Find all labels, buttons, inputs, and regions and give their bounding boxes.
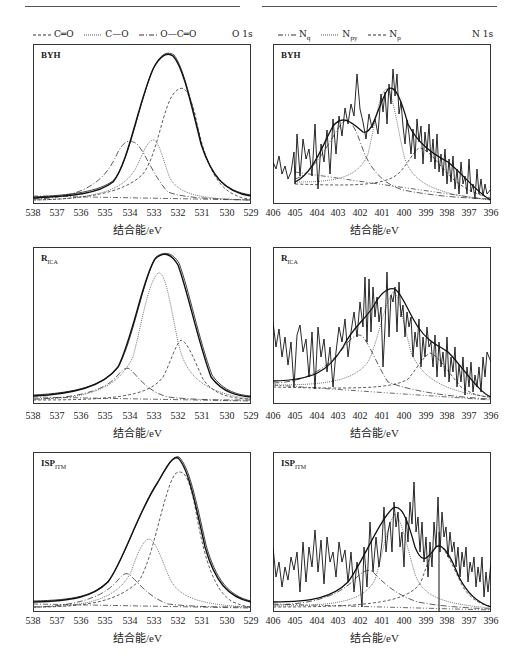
legend-item-np: Np <box>368 29 401 43</box>
top-rule-right <box>262 6 497 7</box>
n1s-byh-plot <box>273 44 491 204</box>
panel-label-byh-n: BYH <box>281 50 301 60</box>
top-rule-left <box>25 6 240 7</box>
panel-label-ispitm: ISPITM <box>41 458 66 470</box>
xlabel-o1s-row1: 结合能/eV <box>113 221 162 237</box>
legend-item-c-o: C—O <box>84 29 128 39</box>
panel-label-ispitm-n: ISPITM <box>281 458 306 470</box>
dashed-line-icon <box>33 32 51 38</box>
o1s-rica-plot <box>33 247 251 404</box>
n1s-rica-plot <box>273 247 491 404</box>
panel-n1s-ispitm: ISPITM <box>273 452 491 612</box>
panel-o1s-ispitm: ISPITM <box>33 452 251 612</box>
panel-o1s-byh: BYH <box>33 44 251 204</box>
legend-item-c-double-o: C═O <box>33 29 74 39</box>
dashdot-line-icon <box>139 32 157 38</box>
dotted-line-icon <box>321 32 339 38</box>
legend-item-nq: Nq <box>278 29 311 43</box>
panel-label-byh: BYH <box>41 50 61 60</box>
o1s-byh-plot <box>33 44 251 204</box>
legend-n1s: Nq Npy Np <box>278 29 409 43</box>
panel-label-rica: RICA <box>41 253 58 265</box>
dotted-line-icon <box>84 32 102 38</box>
panel-n1s-rica: RICA <box>273 247 491 404</box>
legend-item-npy: Npy <box>321 29 357 43</box>
xlabel-n1s-row1: 结合能/eV <box>350 221 399 237</box>
legend-o1s: C═O C—O O—C═O <box>33 29 204 39</box>
panel-n1s-byh: BYH <box>273 44 491 204</box>
legend-item-o-c-double-o: O—C═O <box>139 29 196 39</box>
xlabel-n1s-row3: 结合能/eV <box>350 629 399 645</box>
xlabel-o1s-row2: 结合能/eV <box>113 424 162 440</box>
panel-label-rica-n: RICA <box>281 253 298 265</box>
panel-o1s-rica: RICA <box>33 247 251 404</box>
dashed-line-icon <box>368 32 386 38</box>
n1s-label: N 1s <box>472 29 493 39</box>
o1s-label: O 1s <box>232 29 253 39</box>
o1s-ispitm-plot <box>33 452 251 612</box>
xlabel-o1s-row3: 结合能/eV <box>113 629 162 645</box>
xlabel-n1s-row2: 结合能/eV <box>350 424 399 440</box>
dashdotdot-line-icon <box>278 32 296 38</box>
n1s-ispitm-plot <box>273 452 491 612</box>
